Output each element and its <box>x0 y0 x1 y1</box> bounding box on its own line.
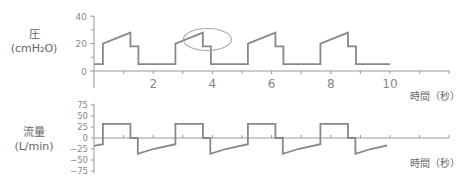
ventilator-waveform-charts: 02040246810 7550250−25−50−75 <box>0 0 466 184</box>
pressure-x-tick-label: 10 <box>382 77 397 91</box>
pressure-y-tick-label: 20 <box>76 39 88 49</box>
flow-y-tick-label: −25 <box>70 144 88 154</box>
flow-waveform-line <box>94 124 387 154</box>
flow-y-tick-label: 50 <box>77 111 88 121</box>
flow-y-tick-label: 75 <box>77 100 88 110</box>
pressure-x-tick-label: 4 <box>209 77 217 91</box>
flow-y-tick-label: 25 <box>77 122 88 132</box>
pressure-chart: 02040246810 <box>76 12 450 91</box>
pressure-y-tick-label: 0 <box>81 67 87 77</box>
pressure-x-tick-label: 8 <box>327 77 335 91</box>
flow-y-tick-label: −50 <box>70 155 88 165</box>
pressure-waveform-line <box>94 33 390 65</box>
flow-chart: 7550250−25−50−75 <box>70 100 449 176</box>
pressure-x-tick-label: 6 <box>268 77 276 91</box>
flow-y-tick-label: 0 <box>83 133 88 143</box>
flow-y-tick-label: −75 <box>70 166 88 176</box>
pressure-y-tick-label: 40 <box>76 12 88 22</box>
pressure-x-tick-label: 2 <box>149 77 157 91</box>
